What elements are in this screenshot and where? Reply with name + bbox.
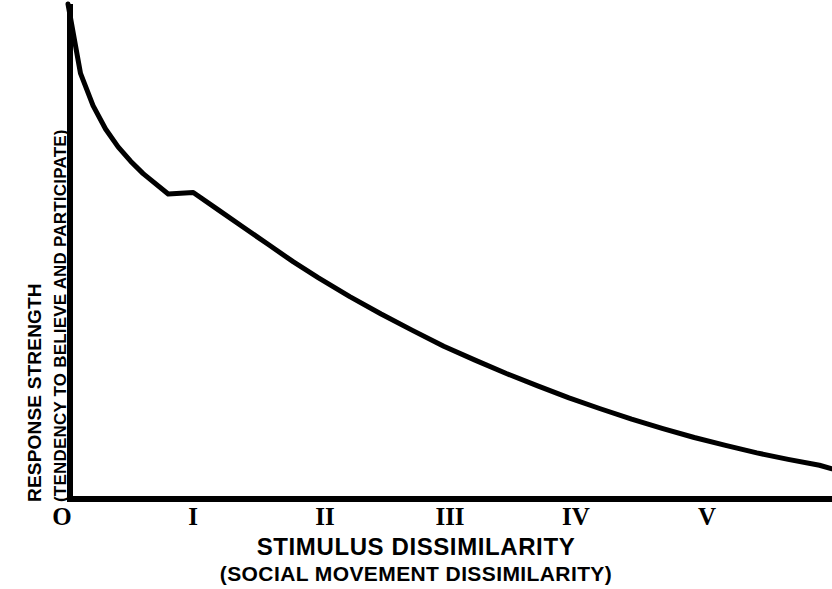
x-axis-label-group: STIMULUS DISSIMILARITY (SOCIAL MOVEMENT … xyxy=(0,533,832,587)
x-axis-title: STIMULUS DISSIMILARITY xyxy=(0,533,832,561)
x-axis-tick-labels: OIIIIIIIVV xyxy=(0,503,832,533)
response-strength-curve xyxy=(68,4,832,469)
x-tick-label-3: III xyxy=(435,503,464,531)
x-tick-label-4: IV xyxy=(562,503,590,531)
chart-figure: RESPONSE STRENGTH (TENDENCY TO BELIEVE A… xyxy=(0,0,832,589)
x-tick-label-1: I xyxy=(188,503,198,531)
x-axis-subtitle: (SOCIAL MOVEMENT DISSIMILARITY) xyxy=(0,561,832,587)
x-tick-label-2: II xyxy=(315,503,334,531)
plot-area xyxy=(0,0,832,512)
x-tick-label-5: V xyxy=(698,503,716,531)
x-tick-label-0: O xyxy=(52,503,71,531)
